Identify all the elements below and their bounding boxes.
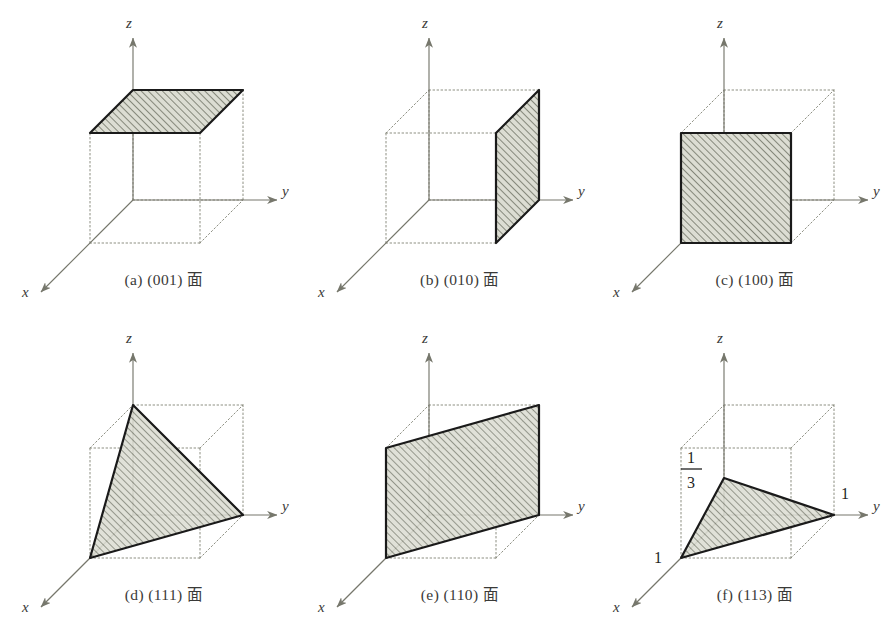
panel-caption-b: (b) (010) 面 [312, 267, 608, 289]
panel-d: z y x (d) (111) 面 [0, 315, 296, 630]
y-axis-label: y [576, 183, 585, 199]
z-axis-label: z [421, 15, 428, 31]
y-axis-label: y [576, 498, 585, 514]
y-axis-label: y [871, 498, 880, 514]
plane-010 [496, 90, 539, 243]
miller-index-figure: z y x (a) (001) 面 [0, 0, 887, 630]
plane-113 [681, 478, 834, 558]
panel-caption-c: (c) (100) 面 [607, 267, 887, 289]
panel-e: z y x (e) (110) 面 [296, 315, 592, 630]
axes-a [41, 38, 277, 292]
panel-b: z y x (b) (010) 面 [296, 0, 592, 315]
panel-caption-a: (a) (001) 面 [16, 267, 312, 289]
panel-c: z y x (c) (100) 面 [591, 0, 887, 315]
cube-d: z y x [21, 330, 289, 615]
cube-f: z y x 1 3 1 1 [612, 330, 880, 615]
intercept-label-x: 1 [654, 549, 662, 566]
z-axis-label: z [421, 330, 428, 346]
plane-100 [681, 133, 791, 243]
z-axis-label: z [125, 330, 132, 346]
cube-e: z y x [317, 330, 585, 615]
intercept-label-z: 1 3 [681, 449, 702, 491]
intercept-z-numerator: 1 [687, 449, 695, 466]
intercept-label-y: 1 [841, 485, 849, 502]
cube-a: z y x [21, 15, 289, 300]
plane-110 [386, 405, 539, 558]
panel-a: z y x (a) (001) 面 [0, 0, 296, 315]
y-axis-label: y [280, 183, 289, 199]
axes-f [632, 353, 868, 607]
panel-caption-d: (d) (111) 面 [16, 582, 312, 604]
cube-b: z y x [317, 15, 585, 300]
y-axis-label: y [280, 498, 289, 514]
panel-caption-e: (e) (110) 面 [312, 582, 608, 604]
z-axis-label: z [716, 15, 723, 31]
z-axis-label: z [716, 330, 723, 346]
intercept-z-denominator: 3 [687, 474, 695, 491]
cube-c: z y x [612, 15, 880, 300]
z-axis-label: z [125, 15, 132, 31]
panel-caption-f: (f) (113) 面 [607, 582, 887, 604]
plane-001 [90, 90, 243, 133]
y-axis-label: y [871, 183, 880, 199]
panel-f: z y x 1 3 1 1 (f) (113) 面 [591, 315, 887, 630]
